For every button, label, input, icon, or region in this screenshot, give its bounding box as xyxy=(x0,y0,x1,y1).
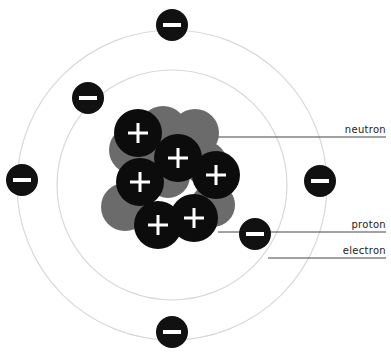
electron xyxy=(156,316,188,348)
electron-label: electron xyxy=(343,245,386,256)
proton xyxy=(114,109,162,157)
electron xyxy=(6,164,38,196)
atom-diagram: neutron proton electron xyxy=(0,0,391,356)
minus-icon xyxy=(13,178,31,182)
proton xyxy=(192,151,240,199)
proton-label: proton xyxy=(351,219,386,230)
proton xyxy=(116,158,164,206)
minus-icon xyxy=(163,330,181,334)
minus-icon xyxy=(311,179,329,183)
minus-icon xyxy=(79,96,97,100)
proton xyxy=(170,194,218,242)
electron xyxy=(304,165,336,197)
electron xyxy=(156,9,188,41)
electron xyxy=(239,218,271,250)
minus-icon xyxy=(163,23,181,27)
electron xyxy=(72,82,104,114)
minus-icon xyxy=(246,232,264,236)
atom-diagram-canvas xyxy=(0,0,391,356)
neutron-label: neutron xyxy=(345,124,386,135)
nucleus xyxy=(101,106,240,249)
